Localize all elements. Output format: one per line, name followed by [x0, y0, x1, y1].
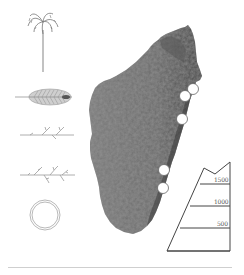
- bottom-divider: [8, 267, 232, 268]
- marker-3: [177, 114, 188, 125]
- inflorescence-simple-icon: [20, 127, 74, 139]
- leaf-icon: [15, 89, 72, 105]
- fruit-ring-icon: [30, 200, 60, 230]
- elevation-label-1000: 1000: [214, 198, 228, 205]
- elevation-label-1500: 1500: [214, 176, 228, 183]
- figure-canvas: [0, 0, 244, 275]
- marker-5: [158, 183, 169, 194]
- madagascar-map: [89, 25, 202, 234]
- elevation-label-500: 500: [217, 220, 228, 227]
- marker-2: [180, 91, 191, 102]
- palm-tree-icon: [28, 13, 58, 72]
- inflorescence-branched-icon: [20, 166, 75, 183]
- marker-4: [159, 165, 170, 176]
